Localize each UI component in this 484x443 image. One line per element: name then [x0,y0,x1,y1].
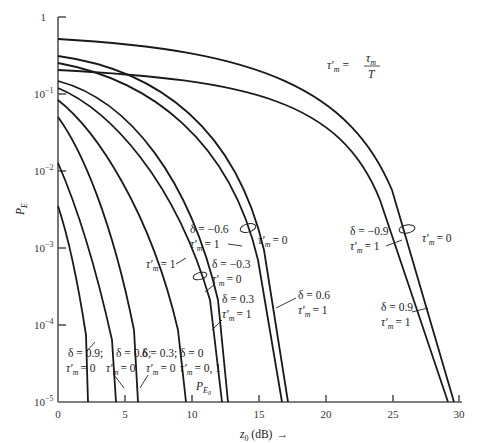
svg-text:τ′m= 0: τ′m= 0 [106,362,136,377]
svg-text:30: 30 [454,408,466,420]
annotation-tau1: τ′m= 1 [146,258,186,273]
y-tick-labels: 1 10−1 10−2 10−3 10−4 10−5 [34,11,54,408]
annotation-d0: δ = 0 τ′m= 0, 1 [180,347,221,377]
svg-text:10−3: 10−3 [34,240,54,254]
svg-text:0: 0 [55,408,61,420]
annotation-d09-t1: δ = 0.9 τ′m= 1 [381,301,428,331]
svg-text:δ = −0.3: δ = −0.3 [212,258,251,270]
svg-text:τ′m= 1: τ′m= 1 [381,316,411,331]
svg-text:10−4: 10−4 [34,317,54,331]
x-tick-labels: 0 5 10 15 20 25 30 [55,408,465,420]
svg-text:PE0: PE0 [195,380,211,396]
annotation-dm03-t0: δ = −0.3 τ′m= 0 [192,258,250,292]
svg-text:10−1: 10−1 [34,86,54,100]
bit-error-probability-chart: 1 10−1 10−2 10−3 10−4 10−5 0 5 10 15 20 … [0,0,484,443]
tau-formula: τ′m= τm T [327,52,380,80]
svg-text:1: 1 [41,11,47,23]
annotation-d06-t1: δ = 0.6 τ′m= 1 [276,289,330,319]
svg-text:τ′m= 0: τ′m= 0 [146,362,176,377]
annotation-dm06: δ = −0.6 τ′m= 1 τ′m= 0 [190,222,288,253]
svg-text:20: 20 [321,408,333,420]
svg-text:τm: τm [366,52,376,67]
svg-text:δ = 0.9: δ = 0.9 [381,301,413,313]
svg-text:10−2: 10−2 [34,163,54,177]
svg-text:δ = 0.6: δ = 0.6 [298,289,330,301]
svg-text:δ = −0.9: δ = −0.9 [350,225,389,237]
y-tick-label: 1 [41,11,47,23]
svg-text:δ = 0.3: δ = 0.3 [222,293,254,305]
svg-text:τ′m= 1: τ′m= 1 [298,304,328,319]
x-axis-title: z0 (dB)→ [239,428,288,443]
annotation-d03-t0: δ = 0.3; τ′m= 0 [140,347,177,388]
curve-delta-0.3-tau-0 [58,117,138,402]
annotation-pe0: PE0 [195,380,211,396]
svg-text:5: 5 [122,408,128,420]
svg-text:τ′m= 0: τ′m= 0 [212,273,242,288]
annotation-d09-t0: δ = 0.9; τ′m= 0 [66,342,103,377]
svg-text:10: 10 [187,408,199,420]
x-ticks [125,395,459,402]
svg-text:τ′m= 0: τ′m= 0 [66,362,96,377]
svg-text:τ′m= 1: τ′m= 1 [222,308,252,323]
y-axis-title: PE [14,203,29,216]
svg-text:δ = 0.3;: δ = 0.3; [142,347,177,359]
svg-text:δ = −0.6: δ = −0.6 [190,223,229,235]
svg-text:15: 15 [254,408,266,420]
svg-text:25: 25 [388,408,400,420]
svg-text:δ = 0.9;: δ = 0.9; [68,347,103,359]
svg-text:τ′m= 0, 1: τ′m= 0, 1 [180,362,221,377]
svg-text:τ′m=: τ′m= [327,59,349,74]
svg-text:10−5: 10−5 [34,394,54,408]
annotation-dm09: δ = −0.9 τ′m= 1 τ′m= 0 [350,224,452,255]
svg-text:δ = 0: δ = 0 [180,347,204,359]
svg-text:τ′m= 1: τ′m= 1 [350,240,380,255]
svg-text:τ′m= 0: τ′m= 0 [422,232,452,247]
svg-text:T: T [368,68,376,80]
